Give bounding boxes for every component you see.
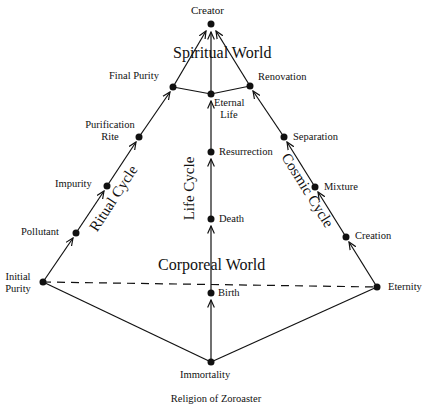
node-death bbox=[208, 216, 215, 223]
label-eternity: Eternity bbox=[388, 281, 422, 293]
edge-final-purity-eternal-life bbox=[173, 87, 211, 94]
edge-purification-final-purity bbox=[139, 92, 170, 137]
node-eternity bbox=[374, 284, 381, 291]
node-creator bbox=[208, 21, 215, 28]
label-creation: Creation bbox=[355, 230, 391, 242]
label-death: Death bbox=[219, 213, 244, 225]
label-mixture: Mixture bbox=[324, 181, 358, 193]
label-spiritual-world: Spiritual World bbox=[173, 44, 271, 62]
label-birth: Birth bbox=[218, 287, 240, 299]
edge-initial-purity-pollutant bbox=[43, 238, 73, 282]
label-pollutant: Pollutant bbox=[21, 226, 59, 238]
node-final-purity bbox=[170, 84, 177, 91]
node-separation bbox=[281, 134, 288, 141]
label-impurity: Impurity bbox=[55, 178, 92, 190]
label-corporeal-world: Corporeal World bbox=[158, 256, 265, 274]
node-resurrection bbox=[208, 149, 215, 156]
edge-initial-purity-immortality bbox=[43, 282, 211, 362]
label-creator: Creator bbox=[191, 4, 224, 16]
label-initial-purity: Initial Purity bbox=[0, 271, 36, 295]
edge-eternal-life-renovation bbox=[211, 86, 250, 94]
label-immortality: Immortality bbox=[180, 369, 230, 381]
node-creation bbox=[343, 234, 350, 241]
label-renovation: Renovation bbox=[258, 71, 306, 83]
node-pollutant bbox=[73, 230, 80, 237]
node-renovation bbox=[247, 83, 254, 90]
node-initial-purity bbox=[40, 279, 47, 286]
label-eternal-life: Eternal Life bbox=[214, 97, 244, 121]
edge-eternity-creation bbox=[349, 242, 377, 287]
label-life-cycle: Life Cycle bbox=[181, 157, 198, 221]
boundary-dashed-line bbox=[43, 282, 377, 287]
node-birth bbox=[208, 290, 215, 297]
figure-caption: Religion of Zoroaster bbox=[0, 393, 432, 404]
label-purification-rite: Purification Rite bbox=[80, 119, 140, 143]
label-resurrection: Resurrection bbox=[219, 146, 273, 158]
edge-separation-renovation bbox=[253, 91, 284, 137]
label-final-purity: Final Purity bbox=[109, 70, 159, 82]
label-separation: Separation bbox=[293, 131, 338, 143]
node-immortality bbox=[208, 359, 215, 366]
